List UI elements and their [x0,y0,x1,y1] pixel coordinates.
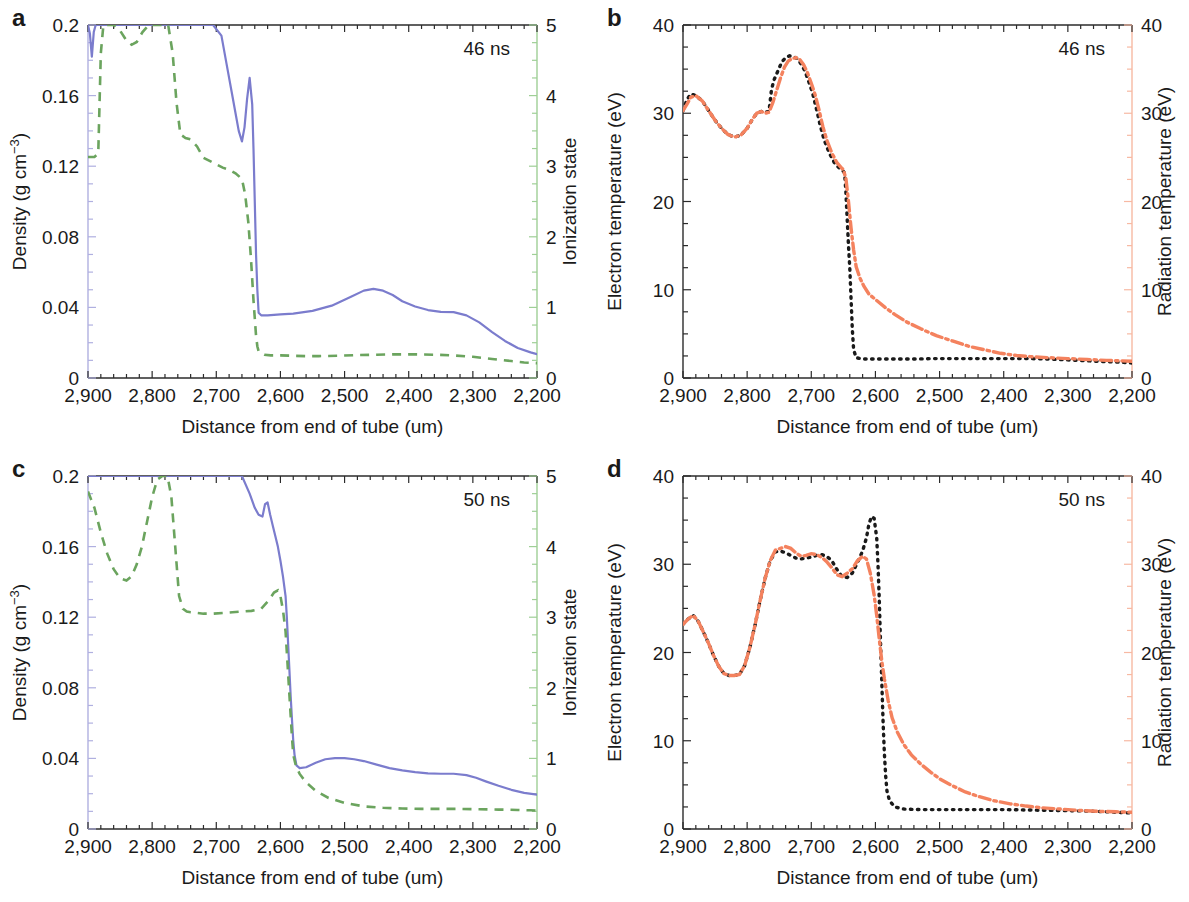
right-axis-ticks [1124,476,1132,829]
right-tick-labels: 543210 [546,15,557,389]
right-tick-label: 1 [546,748,557,769]
plot-frame [88,25,537,378]
left-tick-labels: 403020100 [653,466,674,840]
x-tick-label: 2,400 [980,385,1028,406]
left-tick-label: 20 [653,643,674,664]
panel-letter: b [607,4,622,31]
left-axis-ticks [88,25,96,378]
plot-frame [683,25,1132,378]
left-tick-label: 0 [68,368,79,389]
left-axis-title: Electron temperature (eV) [604,543,625,762]
left-tick-labels: 403020100 [653,15,674,389]
left-axis-ticks [88,476,96,829]
left-tick-label: 0.2 [53,466,79,487]
right-tick-label: 2 [546,227,557,248]
x-tick-label: 2,600 [852,836,900,857]
left-axis-ticks [683,476,691,829]
right-tick-label: 3 [546,156,557,177]
panel-a: 2,9002,8002,7002,6002,5002,4002,3002,200… [0,0,594,451]
electron-temperature-curve [683,517,1132,814]
x-axis-title: Distance from end of tube (um) [182,416,444,437]
panel-d: 2,9002,8002,7002,6002,5002,4002,3002,200… [595,451,1189,902]
right-tick-label: 1 [546,297,557,318]
series-group [88,25,537,363]
right-tick-label: 4 [546,86,557,107]
x-tick-label: 2,800 [128,385,176,406]
right-tick-label: 5 [546,466,557,487]
x-tick-labels: 2,9002,8002,7002,6002,5002,4002,3002,200 [659,836,1156,857]
x-tick-label: 2,600 [257,836,305,857]
left-tick-label: 0 [68,819,79,840]
x-tick-label: 2,700 [788,836,836,857]
left-tick-labels: 0.20.160.120.080.040 [42,466,79,840]
left-tick-label: 20 [653,192,674,213]
right-tick-label: 0 [546,819,557,840]
right-tick-label: 40 [1141,466,1162,487]
right-tick-label: 4 [546,537,557,558]
x-tick-label: 2,600 [257,385,305,406]
figure-root: 2,9002,8002,7002,6002,5002,4002,3002,200… [0,0,1189,902]
x-tick-label: 2,700 [193,385,241,406]
plot-frame [683,476,1132,829]
right-axis-ticks [529,25,537,378]
x-axis-ticks [88,25,537,378]
ionization-state-curve [88,476,537,811]
x-axis-title: Distance from end of tube (um) [182,867,444,888]
right-tick-label: 0 [546,368,557,389]
left-tick-label: 0.12 [42,156,79,177]
left-tick-label: 0.08 [42,678,79,699]
right-axis-title: Ionization state [559,138,580,266]
electron-temperature-curve [683,56,1132,363]
x-tick-label: 2,700 [788,385,836,406]
left-tick-label: 30 [653,103,674,124]
left-axis-title: Density (g cm−3) [7,133,30,270]
x-tick-label: 2,500 [321,385,369,406]
right-tick-label: 0 [1141,368,1152,389]
left-tick-label: 10 [653,731,674,752]
right-tick-labels: 543210 [546,466,557,840]
right-axis-ticks [1124,25,1132,378]
right-tick-label: 0 [1141,819,1152,840]
radiation-temperature-curve [683,58,1132,362]
time-annotation: 50 ns [464,489,510,510]
x-axis-title: Distance from end of tube (um) [777,867,1039,888]
left-tick-label: 10 [653,280,674,301]
right-axis-title: Ionization state [559,589,580,717]
x-axis-ticks [683,25,1132,378]
time-annotation: 50 ns [1059,489,1105,510]
right-tick-label: 3 [546,607,557,628]
right-axis-title: Radiation temperature (eV) [1154,87,1175,316]
density-curve [88,476,537,795]
panel-letter: d [607,455,622,482]
x-tick-label: 2,400 [980,836,1028,857]
left-tick-label: 0 [663,368,674,389]
left-tick-label: 0.16 [42,537,79,558]
panel-b: 2,9002,8002,7002,6002,5002,4002,3002,200… [595,0,1189,451]
right-tick-label: 5 [546,15,557,36]
x-tick-labels: 2,9002,8002,7002,6002,5002,4002,3002,200 [64,385,561,406]
left-axis-title: Electron temperature (eV) [604,92,625,311]
x-tick-label: 2,300 [449,385,497,406]
right-axis-title: Radiation temperature (eV) [1154,538,1175,767]
left-tick-label: 30 [653,554,674,575]
right-tick-label: 40 [1141,15,1162,36]
x-axis-title: Distance from end of tube (um) [777,416,1039,437]
x-tick-label: 2,300 [449,836,497,857]
time-annotation: 46 ns [464,38,510,59]
time-annotation: 46 ns [1059,38,1105,59]
left-tick-label: 40 [653,15,674,36]
x-tick-label: 2,500 [916,836,964,857]
left-axis-ticks [683,25,691,378]
panel-c: 2,9002,8002,7002,6002,5002,4002,3002,200… [0,451,594,902]
panel-letter: c [12,455,25,482]
x-tick-label: 2,800 [723,836,771,857]
series-group [683,56,1132,363]
left-tick-label: 0.16 [42,86,79,107]
x-tick-label: 2,800 [723,385,771,406]
left-tick-labels: 0.20.160.120.080.040 [42,15,79,389]
left-tick-label: 0.08 [42,227,79,248]
left-axis-title: Density (g cm−3) [7,584,30,721]
x-tick-label: 2,600 [852,385,900,406]
x-tick-labels: 2,9002,8002,7002,6002,5002,4002,3002,200 [659,385,1156,406]
left-tick-label: 0.12 [42,607,79,628]
